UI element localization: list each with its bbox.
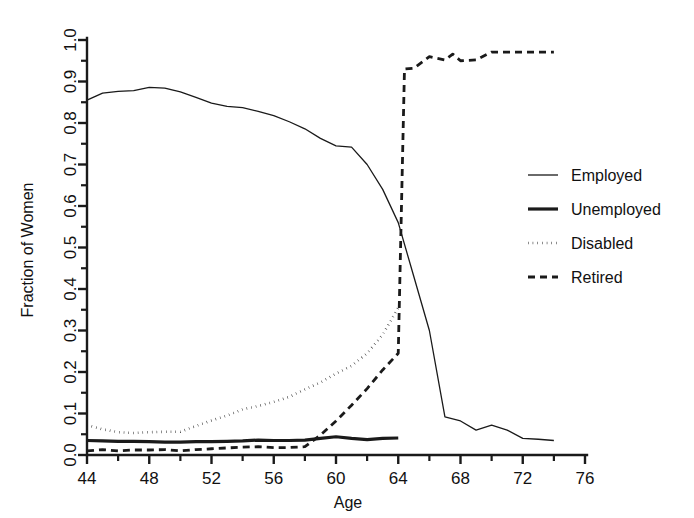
x-tick-label: 72 bbox=[513, 469, 532, 488]
x-tick-label: 60 bbox=[327, 469, 346, 488]
y-tick-label: 0.0 bbox=[61, 443, 80, 467]
y-tick-label: 0.5 bbox=[61, 236, 80, 260]
x-tick-label: 68 bbox=[451, 469, 470, 488]
x-axis-title: Age bbox=[334, 494, 363, 511]
y-tick-label: 0.6 bbox=[61, 194, 80, 218]
y-tick-label: 0.7 bbox=[61, 153, 80, 177]
y-tick-label: 0.9 bbox=[61, 70, 80, 94]
x-axis-tick-labels: 444852566064687276 bbox=[78, 469, 595, 488]
legend-label-retired: Retired bbox=[571, 269, 623, 286]
chart-figure: 0.00.10.20.30.40.50.60.70.80.91.0 444852… bbox=[0, 0, 694, 518]
legend-label-unemployed: Unemployed bbox=[571, 201, 661, 218]
y-tick-label: 0.2 bbox=[61, 360, 80, 384]
line-chart-canvas: 0.00.10.20.30.40.50.60.70.80.91.0 444852… bbox=[0, 0, 694, 518]
y-tick-label: 0.4 bbox=[61, 277, 80, 301]
x-tick-label: 44 bbox=[78, 469, 97, 488]
x-tick-label: 64 bbox=[389, 469, 408, 488]
x-tick-label: 56 bbox=[264, 469, 283, 488]
y-tick-label: 0.8 bbox=[61, 111, 80, 135]
x-tick-label: 48 bbox=[140, 469, 159, 488]
y-axis-title: Fraction of Women bbox=[19, 183, 36, 318]
legend-label-disabled: Disabled bbox=[571, 235, 633, 252]
y-tick-label: 0.3 bbox=[61, 319, 80, 343]
y-tick-label: 1.0 bbox=[61, 28, 80, 52]
y-tick-label: 0.1 bbox=[61, 402, 80, 426]
legend-label-employed: Employed bbox=[571, 167, 642, 184]
x-tick-label: 52 bbox=[202, 469, 221, 488]
x-tick-label: 76 bbox=[576, 469, 595, 488]
